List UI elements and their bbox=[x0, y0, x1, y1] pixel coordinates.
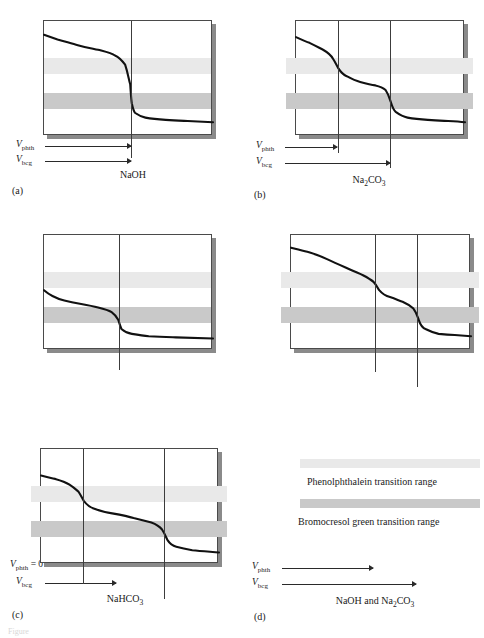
figure-caption: Figure bbox=[8, 628, 29, 636]
species-label-a: NaOH bbox=[88, 170, 178, 180]
species-text: NaOH and Na2CO3 bbox=[336, 595, 415, 606]
panel-c: Vphth = 0 Vbcg NaHCO3 (c) bbox=[0, 210, 242, 420]
vphth-label-b: Vphth bbox=[256, 141, 274, 153]
equivalence-dropline-bcg bbox=[417, 235, 418, 387]
titration-curve-e bbox=[41, 449, 219, 564]
species-label-d: NaOH and Na2CO3 bbox=[300, 596, 450, 609]
plot-d bbox=[290, 234, 470, 349]
vbcg-arrow-a bbox=[45, 161, 131, 162]
vbcg-label-a: Vbcg bbox=[16, 155, 32, 167]
vphth-subscript: phth bbox=[22, 144, 34, 152]
panel-letter-a: (a) bbox=[12, 186, 23, 196]
bromocresol-green-swatch bbox=[300, 499, 480, 508]
annotations-b: Vphth Vbcg Na2CO3 (b) bbox=[242, 0, 484, 210]
plot-e bbox=[40, 448, 218, 563]
vbcg-arrow-d bbox=[282, 584, 416, 585]
plot-frame bbox=[40, 448, 218, 563]
annotations-a: Vphth Vbcg NaOH (a) bbox=[0, 0, 242, 210]
vphth-arrow-d bbox=[282, 568, 373, 569]
vphth-subscript: phth bbox=[262, 145, 274, 153]
panel-d: Vphth Vbcg NaOH and Na2CO3 (d) bbox=[242, 210, 484, 420]
phenolphthalein-legend-label: Phenolphthalein transition range bbox=[307, 477, 437, 487]
species-text: NaOH bbox=[120, 169, 146, 180]
plot-c bbox=[43, 234, 212, 349]
plot-frame bbox=[43, 234, 212, 349]
vphth-subscript: phth bbox=[258, 566, 270, 574]
species-label-b: Na2CO3 bbox=[314, 175, 424, 188]
equivalence-dropline bbox=[119, 235, 120, 370]
equivalence-dropline-phth bbox=[375, 235, 376, 372]
panel-a: Vphth Vbcg NaOH (a) bbox=[0, 0, 242, 210]
vphth-arrow-b bbox=[285, 147, 337, 148]
panel-letter-b: (b) bbox=[254, 190, 266, 200]
equivalence-dropline-phth bbox=[83, 449, 84, 584]
vbcg-subscript: bcg bbox=[22, 159, 32, 167]
indicator-legend: Phenolphthalein transition range Bromocr… bbox=[242, 420, 484, 550]
panel-letter-d: (d) bbox=[254, 612, 266, 622]
vbcg-subscript: bcg bbox=[258, 582, 268, 590]
equivalence-dropline-bcg bbox=[164, 449, 165, 599]
titration-curve-c bbox=[44, 235, 213, 350]
vphth-label-d: Vphth bbox=[252, 562, 270, 574]
figure-titration-curves: Vphth Vbcg NaOH (a) bbox=[0, 0, 484, 638]
vbcg-subscript: bcg bbox=[262, 161, 272, 169]
panel-e: Vphth Vbcg NaHCO3 and Na2CO3 (e) bbox=[0, 420, 242, 638]
vbcg-label-d: Vbcg bbox=[252, 578, 268, 590]
species-text: Na2CO3 bbox=[352, 174, 385, 185]
vphth-arrow-a bbox=[45, 146, 131, 147]
vbcg-arrow-b bbox=[285, 163, 390, 164]
titration-curve-d bbox=[291, 235, 471, 350]
vbcg-label-b: Vbcg bbox=[256, 157, 272, 169]
phenolphthalein-swatch bbox=[300, 459, 480, 468]
bromocresol-green-legend-label: Bromocresol green transition range bbox=[298, 517, 439, 527]
panel-b: Vphth Vbcg Na2CO3 (b) bbox=[242, 0, 484, 210]
vphth-label-a: Vphth bbox=[16, 140, 34, 152]
plot-frame bbox=[290, 234, 470, 349]
